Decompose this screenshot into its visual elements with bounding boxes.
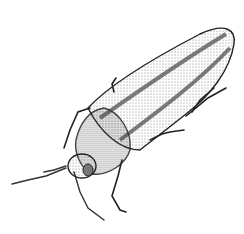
illustration-canvas xyxy=(0,0,244,234)
beetle-illustration xyxy=(0,0,244,234)
beetle-eye xyxy=(83,164,93,176)
